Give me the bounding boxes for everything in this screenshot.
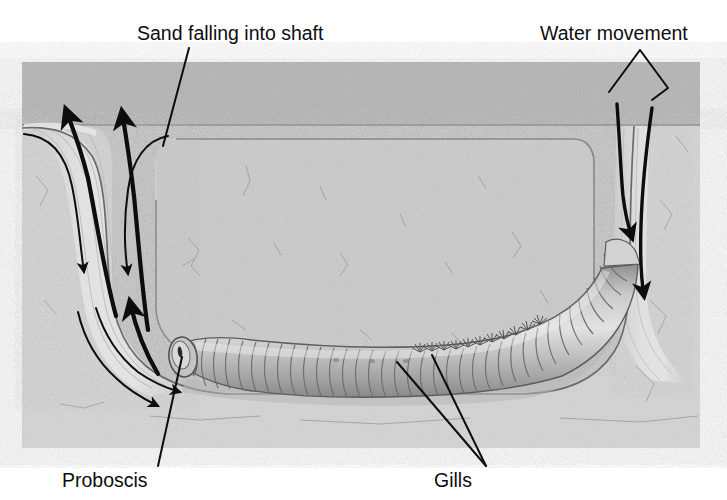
- label-proboscis: Proboscis: [62, 469, 148, 491]
- label-gills: Gills: [434, 469, 472, 491]
- label-sand-falling: Sand falling into shaft: [137, 22, 324, 44]
- label-water-movement: Water movement: [540, 22, 688, 44]
- diagram-canvas: Sand falling into shaft Water movement P…: [0, 0, 727, 500]
